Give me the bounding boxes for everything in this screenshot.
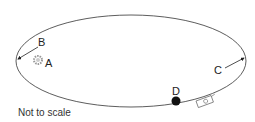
- spacecraft-icon: [196, 94, 217, 107]
- star-icon: [34, 56, 42, 64]
- label-c: C: [214, 64, 222, 76]
- arrow-c: [225, 58, 244, 68]
- label-b: B: [38, 36, 45, 48]
- planet-d: [172, 97, 181, 106]
- label-d: D: [172, 85, 180, 97]
- scale-note: Not to scale: [18, 107, 71, 118]
- orbit-diagram: A B C D Not to scale: [0, 0, 255, 122]
- label-a: A: [45, 57, 53, 69]
